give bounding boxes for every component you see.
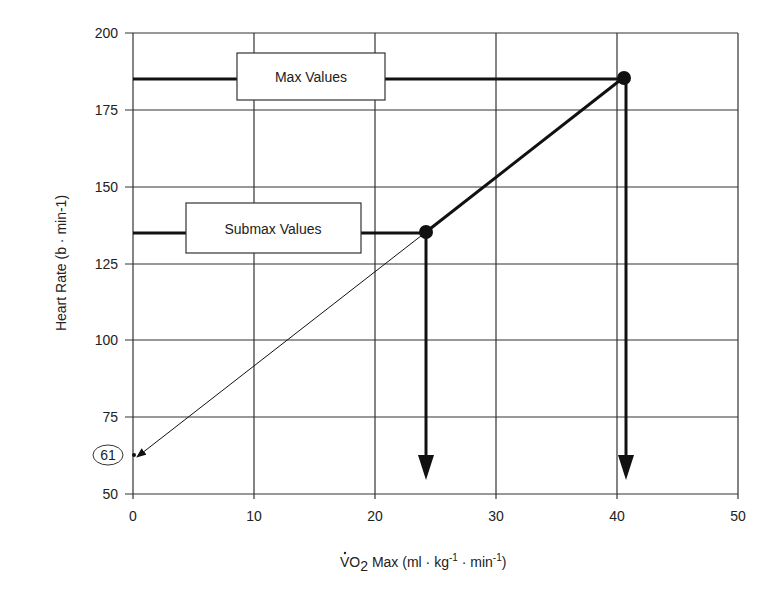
y-tick-50: 50 [102,486,118,502]
x-tick-0: 0 [129,508,137,524]
x-axis-ticks: 0 10 20 30 40 50 [129,508,746,524]
intercept-value: 61 [100,447,116,463]
svg-text:VO2 Max (ml · kg-1 · min-1): VO2 Max (ml · kg-1 · min-1) [340,552,506,574]
x-title-sub2: 2 [360,558,368,574]
y-axis-title: Heart Rate (b · min-1) [53,195,69,331]
y-tick-150: 150 [95,179,119,195]
submax-values-label: Submax Values [224,221,321,237]
x-tick-50: 50 [730,508,746,524]
x-title-mid: · min [458,554,493,570]
max-values-box: Max Values [237,53,385,100]
x-title-close: ) [502,554,507,570]
heart-rate-vo2-chart: 200 175 150 125 100 75 50 0 10 20 30 40 … [0,0,783,595]
x-axis-title: VO2 Max (ml · kg-1 · min-1) [340,552,506,574]
x-tick-30: 30 [488,508,504,524]
y-tick-100: 100 [95,332,119,348]
x-title-rest: Max (ml · kg [368,554,449,570]
submax-point [419,225,433,239]
hr-vo2-line [426,78,623,232]
x-title-vo: VO [340,554,360,570]
gridlines [125,33,738,499]
y-axis-ticks: 200 175 150 125 100 75 50 [95,25,119,502]
x-tick-20: 20 [367,508,383,524]
max-point [617,71,631,85]
y-tick-200: 200 [95,25,119,41]
max-down-arrow-icon [618,455,634,480]
submax-values-box: Submax Values [186,203,361,253]
submax-down-arrow-icon [418,455,434,480]
y-tick-75: 75 [102,409,118,425]
intercept-label: 61 [93,445,123,465]
max-values-label: Max Values [275,69,347,85]
y-tick-125: 125 [95,256,119,272]
vdot-icon [344,552,346,554]
extrapolation-line [137,232,426,457]
y-tick-175: 175 [95,102,119,118]
x-tick-10: 10 [246,508,262,524]
x-tick-40: 40 [609,508,625,524]
intercept-point [132,453,136,457]
